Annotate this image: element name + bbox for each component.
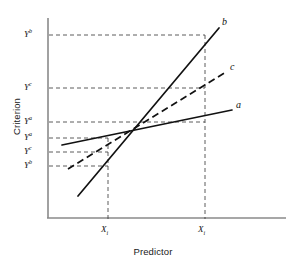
y-tick-label-yb-low: Yb — [24, 160, 32, 170]
y-gridlines — [49, 35, 205, 166]
x-axis-title: Predictor — [0, 246, 306, 257]
series-line-b — [78, 28, 219, 196]
series-label-b: b — [222, 16, 227, 27]
y-axis-title: Criterion — [11, 77, 22, 157]
x-tick-label-xi: Xi — [101, 224, 108, 234]
series-line-c — [68, 72, 226, 169]
y-tick-label-yb-high: Yb — [24, 29, 32, 39]
regression-lines-chart — [0, 0, 306, 265]
series-label-c: c — [230, 61, 234, 72]
y-tick-label-ya-low: Ya — [24, 132, 32, 142]
x-tick-label-xj: Xi — [198, 224, 205, 234]
y-tick-label-yc-high: Yc — [24, 82, 32, 92]
series-label-a: a — [236, 99, 241, 110]
y-tick-label-ya-high: Ya — [24, 116, 32, 126]
y-tick-label-yc-low: Yc — [24, 146, 32, 156]
series-line-a — [62, 110, 232, 145]
